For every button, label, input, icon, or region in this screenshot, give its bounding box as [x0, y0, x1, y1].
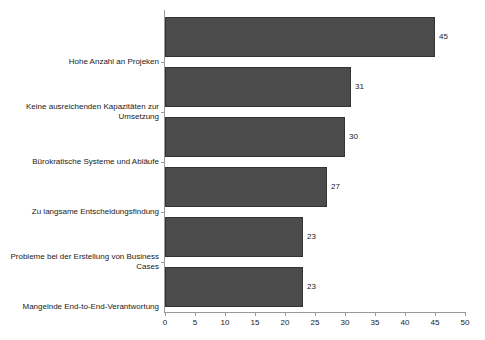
bar-row: 23 [165, 262, 465, 312]
x-tick-3 [255, 312, 256, 316]
bar-value-1: 31 [351, 83, 364, 91]
x-tick-label-5: 25 [311, 318, 320, 328]
x-tick-10 [465, 312, 466, 316]
x-tick-4 [285, 312, 286, 316]
x-tick-7 [375, 312, 376, 316]
x-tick-label-4: 20 [281, 318, 290, 328]
x-tick-2 [225, 312, 226, 316]
bar-chart: 45 31 30 27 23 23 Hohe Anzahl [0, 0, 485, 340]
bar-value-2: 30 [345, 133, 358, 141]
x-tick-1 [195, 312, 196, 316]
category-label-3: Zu langsame Entscheidungsfindung [6, 207, 159, 217]
x-tick-label-1: 5 [193, 318, 197, 328]
bar-row: 30 [165, 112, 465, 162]
x-tick-label-9: 45 [431, 318, 440, 328]
bar-row: 31 [165, 62, 465, 112]
category-label-5: Mangelnde End-to-End-Verantwortung [6, 302, 159, 312]
x-tick-label-2: 10 [221, 318, 230, 328]
x-tick-label-10: 50 [461, 318, 470, 328]
x-tick-label-8: 40 [401, 318, 410, 328]
x-tick-label-3: 15 [251, 318, 260, 328]
bar-0 [165, 17, 435, 57]
bar-1 [165, 67, 351, 107]
plot-area: 45 31 30 27 23 23 [165, 12, 465, 312]
x-tick-0 [165, 312, 166, 316]
bar-5 [165, 267, 303, 307]
category-label-0: Hohe Anzahl an Projeken [6, 57, 159, 67]
bar-row: 23 [165, 212, 465, 262]
bar-row: 27 [165, 162, 465, 212]
bar-value-5: 23 [303, 283, 316, 291]
bar-value-0: 45 [435, 33, 448, 41]
x-tick-8 [405, 312, 406, 316]
bar-2 [165, 117, 345, 157]
bar-row: 45 [165, 12, 465, 62]
x-tick-label-7: 35 [371, 318, 380, 328]
bar-4 [165, 217, 303, 257]
bar-value-3: 27 [327, 183, 340, 191]
bar-3 [165, 167, 327, 207]
x-tick-6 [345, 312, 346, 316]
x-tick-5 [315, 312, 316, 316]
category-label-2: Bürokratische Systeme und Abläufe [6, 157, 159, 167]
bar-value-4: 23 [303, 233, 316, 241]
x-tick-label-6: 30 [341, 318, 350, 328]
x-tick-label-0: 0 [163, 318, 167, 328]
x-tick-9 [435, 312, 436, 316]
category-label-4: Probleme bei der Erstellung von Business… [6, 252, 159, 272]
category-label-1: Keine ausreichenden Kapazitäten zur Umse… [6, 102, 159, 122]
